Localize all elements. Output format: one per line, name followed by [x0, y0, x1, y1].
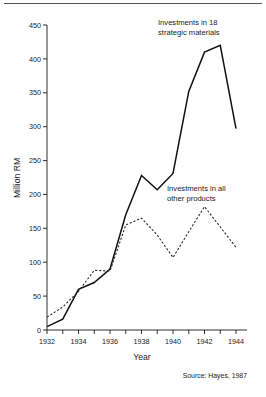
x-tick-label: 1940 — [165, 337, 181, 346]
x-tick-label: 1934 — [71, 337, 87, 346]
annotation-strategic-line2: strategic materials — [158, 28, 220, 37]
annotation-strategic-materials: Investments in 18 strategic materials — [158, 18, 220, 37]
x-axis-ticks — [47, 330, 236, 334]
y-axis-title: Million RM — [12, 158, 22, 198]
y-tick-label: 50 — [33, 292, 41, 301]
x-tick-label: 1942 — [197, 337, 213, 346]
y-tick-label: 150 — [29, 224, 41, 233]
y-axis-ticks — [43, 25, 47, 330]
chart-figure: 0 50 100 150 200 250 300 350 400 450 — [0, 0, 266, 397]
y-axis-tick-labels: 0 50 100 150 200 250 300 350 400 450 — [29, 21, 41, 335]
annotation-other-line1: Investments in all — [167, 184, 226, 193]
series-line-other-products — [47, 207, 236, 317]
y-tick-label: 0 — [37, 326, 41, 335]
y-tick-label: 450 — [29, 21, 41, 30]
x-tick-label: 1936 — [102, 337, 118, 346]
y-tick-label: 250 — [29, 156, 41, 165]
x-tick-label: 1938 — [134, 337, 150, 346]
y-tick-label: 350 — [29, 88, 41, 97]
y-tick-label: 200 — [29, 190, 41, 199]
line-chart-plot: 0 50 100 150 200 250 300 350 400 450 — [0, 0, 266, 397]
x-tick-label: 1944 — [228, 337, 244, 346]
annotation-strategic-line1: Investments in 18 — [158, 18, 218, 27]
x-tick-label: 1932 — [39, 337, 55, 346]
source-note: Source: Hayes, 1987 — [183, 372, 248, 380]
y-tick-label: 400 — [29, 55, 41, 64]
x-axis-title: Year — [133, 352, 151, 362]
y-tick-label: 300 — [29, 122, 41, 131]
x-axis-tick-labels: 1932 1934 1936 1938 1940 1942 1944 — [39, 337, 244, 346]
annotation-other-line2: other products — [167, 194, 216, 203]
annotation-other-products: Investments in all other products — [167, 184, 226, 203]
y-tick-label: 100 — [29, 258, 41, 267]
